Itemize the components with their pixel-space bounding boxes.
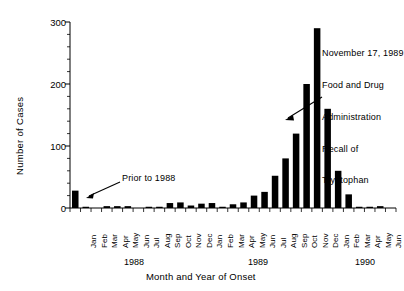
y-tick-label-0: 0 <box>36 203 66 214</box>
x-axis-ticks <box>70 208 396 212</box>
x-tick-label: Jul <box>279 237 288 248</box>
bar <box>261 192 268 208</box>
year-label-1989: 1989 <box>248 257 268 267</box>
x-tick-label: Jan <box>215 235 224 248</box>
bar <box>188 206 195 208</box>
annotation-fda-recall-line2: Food and Drug <box>322 80 404 91</box>
x-tick-label: Apr <box>121 235 130 248</box>
x-tick-label: Apr <box>373 235 382 248</box>
x-tick-label: Jun <box>268 235 277 248</box>
y-tick-label-300: 300 <box>36 17 66 28</box>
annotation-fda-recall-line5: Tryptophan <box>322 175 404 186</box>
bar <box>198 204 205 208</box>
x-tick-label: Aug <box>289 233 298 248</box>
annotation-prior-to-1988: Prior to 1988 <box>122 173 175 184</box>
x-tick-label: May <box>258 233 267 248</box>
x-tick-label: Feb <box>352 234 361 248</box>
x-tick-label: Feb <box>226 234 235 248</box>
bar <box>251 196 258 208</box>
x-tick-label: Sep <box>300 233 309 248</box>
y-tick-label-200: 200 <box>36 79 66 90</box>
x-tick-label: Jul <box>152 237 161 248</box>
bar <box>293 134 300 208</box>
x-tick-label: Nov <box>321 233 330 248</box>
bar <box>314 28 321 208</box>
bar <box>177 202 184 208</box>
x-tick-label: Oct <box>310 235 319 248</box>
bar <box>104 206 111 208</box>
bar <box>156 207 163 208</box>
bar <box>72 191 79 208</box>
bar <box>83 207 90 208</box>
y-tick-label-100: 100 <box>36 141 66 152</box>
bar <box>230 204 237 208</box>
annotation-fda-recall-line3: Administration <box>322 112 404 123</box>
annotation-fda-recall-line4: Recall of <box>322 144 404 155</box>
x-tick-label: Feb <box>100 234 109 248</box>
x-tick-label: Nov <box>194 233 203 248</box>
bar <box>125 206 132 208</box>
x-axis-title: Month and Year of Onset <box>146 271 256 282</box>
x-tick-label: Oct <box>184 235 193 248</box>
x-tick-label: Aug <box>163 233 172 248</box>
x-tick-label: Mar <box>237 234 246 248</box>
x-tick-label: Jun <box>142 235 151 248</box>
x-tick-label: Dec <box>331 233 340 248</box>
x-tick-label: Dec <box>205 233 214 248</box>
bar <box>167 203 174 208</box>
bar <box>272 176 279 208</box>
bar <box>240 202 247 208</box>
x-tick-label: Jan <box>342 235 351 248</box>
annotation-fda-recall-line1: November 17, 1989 <box>322 48 404 59</box>
bar <box>282 158 289 208</box>
y-axis-ticks <box>65 22 70 208</box>
x-tick-label: Mar <box>363 234 372 248</box>
annotation-fda-recall: November 17, 1989 Food and Drug Administ… <box>322 27 404 207</box>
x-tick-label: May <box>384 233 393 248</box>
year-label-1990: 1990 <box>355 257 375 267</box>
x-tick-label: May <box>131 233 140 248</box>
x-tick-label: Jan <box>89 235 98 248</box>
bar <box>219 207 226 208</box>
x-tick-label: Mar <box>110 234 119 248</box>
x-tick-label: Apr <box>247 235 256 248</box>
year-label-1988: 1988 <box>124 257 144 267</box>
bar <box>209 203 216 208</box>
bar <box>114 206 121 208</box>
x-tick-label: Sep <box>173 233 182 248</box>
x-tick-label: Jun <box>394 235 403 248</box>
bar <box>146 207 153 208</box>
bar <box>303 84 310 208</box>
